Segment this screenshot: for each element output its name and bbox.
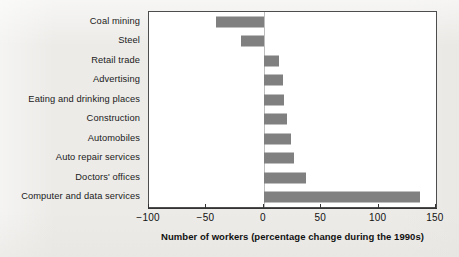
bar-auto-repair-services (264, 153, 294, 164)
bar-retail-trade (264, 55, 279, 66)
category-label-auto-repair-services: Auto repair services (56, 152, 140, 162)
x-tick-label--100: −100 (136, 212, 159, 223)
bar-steel (241, 36, 264, 47)
category-label-eating-and-drinking-places: Eating and drinking places (28, 94, 140, 104)
x-tick-mark-50 (320, 204, 321, 209)
bar-construction (264, 114, 287, 125)
x-tick-mark-150 (435, 204, 436, 209)
category-axis: Coal mining Steel Retail trade Advertisi… (0, 11, 144, 208)
bar-coal-mining (216, 16, 264, 27)
x-axis-line (148, 208, 437, 209)
x-tick-mark-0 (263, 204, 264, 209)
category-label-automobiles: Automobiles (88, 133, 140, 143)
x-tick-label-0: 0 (260, 212, 266, 223)
chart-figure: Coal mining Steel Retail trade Advertisi… (0, 0, 459, 257)
bar-advertising (264, 75, 284, 86)
bar-doctors-offices (264, 172, 306, 183)
category-label-advertising: Advertising (93, 74, 140, 84)
category-label-steel: Steel (118, 35, 140, 45)
x-axis-title: Number of workers (percentage change dur… (148, 231, 437, 242)
bar-computer-and-data-services (264, 192, 420, 203)
x-tick-mark--100 (148, 204, 149, 209)
x-tick-mark-100 (378, 204, 379, 209)
category-label-doctors-offices: Doctors' offices (75, 172, 140, 182)
category-label-construction: Construction (87, 113, 140, 123)
x-tick-label-150: 150 (426, 212, 443, 223)
x-tick-label--50: −50 (197, 212, 215, 223)
bar-eating-and-drinking-places (264, 94, 285, 105)
category-label-coal-mining: Coal mining (90, 16, 140, 26)
category-label-computer-and-data-services: Computer and data services (21, 191, 140, 201)
x-tick-label-50: 50 (314, 212, 326, 223)
x-axis: −100 −50 0 50 100 150 (148, 208, 437, 209)
plot-area (148, 11, 437, 208)
category-label-retail-trade: Retail trade (91, 55, 140, 65)
bar-automobiles (264, 133, 292, 144)
x-tick-label-100: 100 (369, 212, 386, 223)
bars-layer (149, 12, 436, 207)
x-tick-mark--50 (205, 204, 206, 209)
